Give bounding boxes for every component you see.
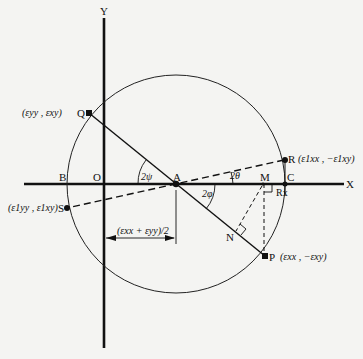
label-rx: Rx [276,188,288,198]
label-o: O [93,172,101,183]
angle-2theta: 2θ [230,171,240,181]
coords-p: (εxx , −εxy) [280,252,327,262]
right-angle-n [240,224,246,235]
label-q: Q [77,108,85,119]
label-s: S [58,203,64,214]
x-axis-label: X [346,179,354,190]
label-b: B [59,172,66,183]
coords-s: (ε1yy , ε1xy) [8,203,58,213]
coords-q: (εyy , εxy) [22,108,62,118]
label-m: M [260,172,270,183]
point-q [86,110,92,116]
y-axis-label: Y [100,6,108,17]
point-s [64,205,70,211]
label-c: C [287,172,294,183]
label-r: R [288,154,295,165]
label-a: A [173,172,181,183]
label-p: P [269,252,275,263]
dimension-label: (εxx + εyy)/2 [117,226,169,236]
angle-2psi: 2ψ [141,172,152,182]
mohr-circle-diagram [0,0,363,359]
point-p [262,253,268,259]
dim-arrow-left [106,235,116,241]
coords-r: (ε1xx , −ε1xy) [298,154,355,164]
label-n: N [226,232,234,243]
angle-2phi: 2φ [202,189,213,199]
